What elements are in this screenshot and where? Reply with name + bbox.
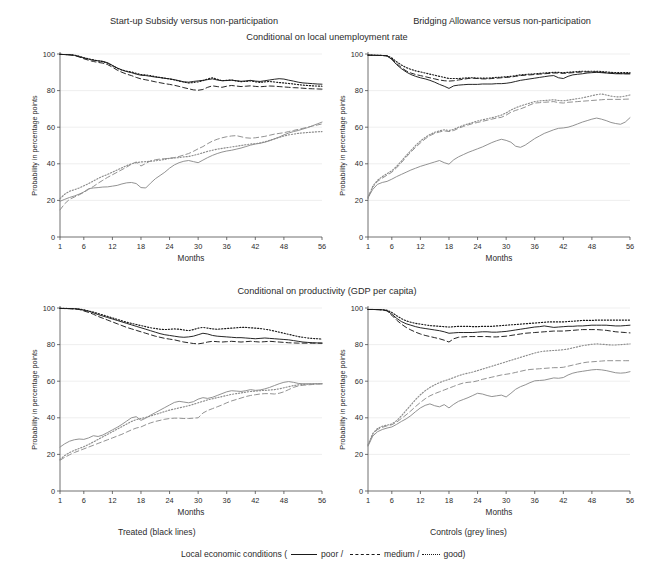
y-tick-label: 20 xyxy=(47,450,55,459)
y-tick-label: 80 xyxy=(47,86,55,95)
axis-lines xyxy=(368,52,630,237)
chart-svg: 020406080100161218243036424856MonthsProb… xyxy=(336,300,636,525)
y-tick-label: 60 xyxy=(47,377,55,386)
x-tick-label: 6 xyxy=(390,496,394,505)
footer-controls-label: Controls (grey lines) xyxy=(430,527,507,537)
x-tick-label: 56 xyxy=(318,242,326,251)
y-tick-label: 20 xyxy=(47,196,55,205)
x-tick-label: 42 xyxy=(251,242,259,251)
column-title-right: Bridging Allowance versus non-participat… xyxy=(366,16,638,26)
x-tick-label: 12 xyxy=(416,242,424,251)
y-tick-label: 40 xyxy=(47,413,55,422)
x-tick-label: 42 xyxy=(559,496,567,505)
x-tick-label: 24 xyxy=(473,496,481,505)
x-tick-label: 1 xyxy=(366,496,370,505)
chart-panel-top-left: 020406080100161218243036424856MonthsProb… xyxy=(28,46,328,271)
legend-medium-text: medium / xyxy=(384,549,419,559)
y-tick-label: 60 xyxy=(355,377,363,386)
legend-dashed-line-icon xyxy=(350,554,380,555)
column-title-left: Start-up Subsidy versus non-participatio… xyxy=(58,16,330,26)
row-title-bottom: Conditional on productivity (GDP per cap… xyxy=(0,286,654,296)
y-tick-label: 100 xyxy=(351,304,363,313)
figure-legend: Local economic conditions ( poor / mediu… xyxy=(181,549,465,559)
series-line-controls-good xyxy=(368,94,630,199)
axis-lines xyxy=(60,52,322,237)
y-axis-ticks: 020406080100 xyxy=(43,50,60,242)
x-tick-label: 1 xyxy=(58,496,62,505)
y-tick-label: 40 xyxy=(355,159,363,168)
x-tick-label: 30 xyxy=(194,242,202,251)
series-line-controls-good xyxy=(368,344,630,445)
x-tick-label: 56 xyxy=(318,496,326,505)
x-tick-label: 36 xyxy=(531,496,539,505)
series-line-controls-poor xyxy=(60,122,322,201)
x-tick-label: 48 xyxy=(280,496,288,505)
y-tick-label: 0 xyxy=(359,487,363,496)
y-axis-title: Probability in percentage points xyxy=(30,95,39,196)
chart-svg: 020406080100161218243036424856MonthsProb… xyxy=(336,46,636,271)
x-axis-ticks: 161218243036424856 xyxy=(58,491,326,505)
y-axis-title: Probability in percentage points xyxy=(338,95,347,196)
grid-lines xyxy=(60,54,322,200)
x-tick-label: 48 xyxy=(588,496,596,505)
series-line-controls-poor xyxy=(368,118,630,198)
chart-panel-bottom-right: 020406080100161218243036424856MonthsProb… xyxy=(336,300,636,525)
y-tick-label: 60 xyxy=(355,123,363,132)
series-line-treated-good xyxy=(368,55,630,78)
x-axis-title: Months xyxy=(178,254,205,263)
x-tick-label: 1 xyxy=(58,242,62,251)
row-title-top: Conditional on local unemployment rate xyxy=(0,32,654,42)
axis-lines xyxy=(60,306,322,491)
y-tick-label: 0 xyxy=(51,233,55,242)
x-tick-label: 6 xyxy=(82,242,86,251)
y-tick-label: 20 xyxy=(355,196,363,205)
figure-root: Start-up Subsidy versus non-participatio… xyxy=(0,0,654,577)
y-tick-label: 0 xyxy=(359,233,363,242)
x-tick-label: 18 xyxy=(445,496,453,505)
y-tick-label: 80 xyxy=(355,86,363,95)
x-tick-label: 42 xyxy=(559,242,567,251)
x-tick-label: 18 xyxy=(137,496,145,505)
series-line-controls-good xyxy=(60,132,322,199)
x-tick-label: 18 xyxy=(137,242,145,251)
series-group xyxy=(368,309,630,446)
x-tick-label: 12 xyxy=(416,496,424,505)
x-tick-label: 24 xyxy=(473,242,481,251)
series-line-controls-medium xyxy=(368,361,630,446)
legend-solid-line-icon xyxy=(291,554,317,555)
x-tick-label: 6 xyxy=(82,496,86,505)
series-line-controls-medium xyxy=(368,99,630,197)
y-tick-label: 40 xyxy=(47,159,55,168)
y-tick-label: 100 xyxy=(43,50,55,59)
series-line-treated-medium xyxy=(60,54,322,90)
series-line-treated-poor xyxy=(60,54,322,84)
x-tick-label: 18 xyxy=(445,242,453,251)
y-tick-label: 100 xyxy=(43,304,55,313)
x-tick-label: 56 xyxy=(626,242,634,251)
y-tick-label: 60 xyxy=(47,123,55,132)
legend-prefix-text: Local economic conditions ( xyxy=(181,549,287,559)
y-tick-label: 80 xyxy=(355,340,363,349)
chart-panel-bottom-left: 020406080100161218243036424856MonthsProb… xyxy=(28,300,328,525)
axis-lines xyxy=(368,306,630,491)
grid-lines xyxy=(60,308,322,454)
series-group xyxy=(368,55,630,198)
x-tick-label: 48 xyxy=(280,242,288,251)
x-axis-ticks: 161218243036424856 xyxy=(366,491,634,505)
grid-lines xyxy=(368,54,630,200)
y-axis-ticks: 020406080100 xyxy=(351,50,368,242)
x-tick-label: 30 xyxy=(194,496,202,505)
legend-good-text: good) xyxy=(443,549,465,559)
series-group xyxy=(60,54,322,210)
chart-svg: 020406080100161218243036424856MonthsProb… xyxy=(28,300,328,525)
y-tick-label: 0 xyxy=(51,487,55,496)
y-axis-ticks: 020406080100 xyxy=(351,304,368,496)
chart-panel-top-right: 020406080100161218243036424856MonthsProb… xyxy=(336,46,636,271)
y-axis-title: Probability in percentage points xyxy=(338,349,347,450)
x-tick-label: 6 xyxy=(390,242,394,251)
y-tick-label: 20 xyxy=(355,450,363,459)
x-tick-label: 30 xyxy=(502,242,510,251)
x-tick-label: 24 xyxy=(165,496,173,505)
x-tick-label: 56 xyxy=(626,496,634,505)
y-tick-label: 40 xyxy=(355,413,363,422)
